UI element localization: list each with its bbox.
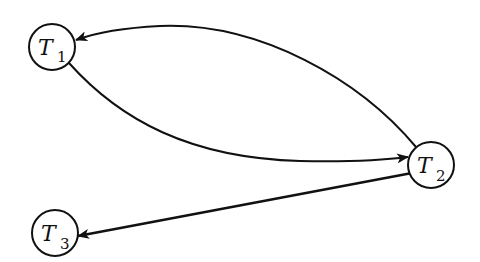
- node-t1: T 1: [29, 24, 75, 70]
- node-t1-label: T: [38, 35, 55, 60]
- node-t3-label: T: [41, 221, 58, 246]
- node-t3: T 3: [32, 210, 78, 256]
- node-t3-subscript: 3: [60, 235, 70, 253]
- node-t2: T 2: [408, 142, 454, 188]
- graph-canvas: T 1 T 2 T 3: [0, 0, 480, 262]
- node-t2-subscript: 2: [436, 167, 446, 185]
- edge-t2-to-t1: [76, 26, 416, 147]
- edge-t2-to-t3: [78, 173, 412, 236]
- edge-t1-to-t2: [69, 63, 408, 161]
- node-t1-subscript: 1: [57, 48, 67, 66]
- node-t2-label: T: [417, 153, 434, 178]
